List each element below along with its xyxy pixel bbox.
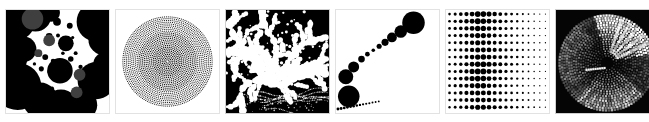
concentric-rings-artwork — [116, 10, 219, 113]
panel-concentric-rings[interactable] — [115, 9, 220, 114]
panel-dark-radial-spiral[interactable] — [555, 9, 649, 114]
dark-radial-spiral-artwork — [556, 10, 649, 113]
halftone-grid-artwork — [446, 10, 549, 113]
panel-flowing-arcs[interactable] — [335, 9, 440, 114]
panel-overlapping-circles[interactable] — [5, 9, 110, 114]
flowing-arcs-artwork — [336, 10, 439, 113]
white-dendrite-artwork — [226, 10, 329, 113]
panel-white-dendrite[interactable] — [225, 9, 330, 114]
panel-halftone-grid[interactable] — [445, 9, 550, 114]
overlapping-circles-artwork — [6, 10, 109, 113]
panel-gallery — [0, 0, 649, 122]
